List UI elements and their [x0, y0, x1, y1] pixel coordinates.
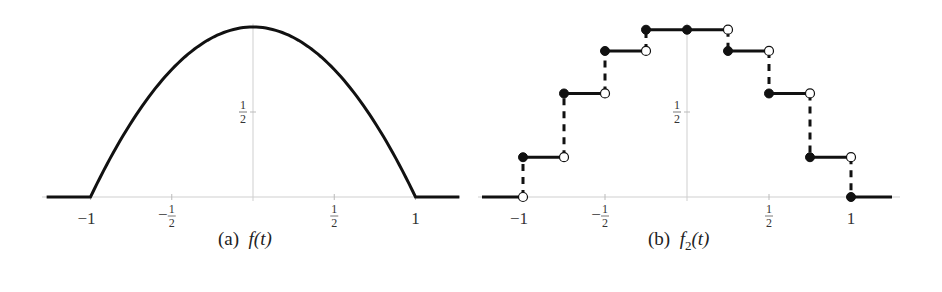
open-dot [724, 25, 733, 34]
svg-text:1: 1 [331, 202, 337, 216]
open-dot [601, 89, 610, 98]
x-tick-label: −12 [158, 202, 176, 230]
caption-b: (b) f2(t) [648, 228, 709, 254]
svg-text:2: 2 [331, 216, 337, 230]
x-tick-label: 1 [411, 209, 420, 228]
chart-panel-a: −1−1212112 [42, 24, 460, 230]
caption-b-arg: (t) [691, 228, 709, 249]
svg-text:2: 2 [766, 216, 772, 230]
svg-text:−1: −1 [510, 209, 528, 228]
x-tick-label: 12 [765, 202, 773, 230]
chart-panel-b: −1−1212112 [478, 24, 900, 230]
filled-dot [683, 25, 692, 34]
svg-text:−1: −1 [77, 209, 95, 228]
filled-dot [724, 46, 733, 55]
open-dot [519, 193, 528, 202]
open-dot [560, 153, 569, 162]
svg-text:2: 2 [169, 216, 175, 230]
caption-a-label: (a) [218, 228, 239, 249]
figure-canvas: −1−1212112 −1−1212112 [0, 0, 942, 292]
y-tick-label: 12 [673, 98, 681, 126]
x-tick-label: 1 [847, 209, 856, 228]
svg-text:1: 1 [674, 98, 680, 112]
svg-text:1: 1 [602, 202, 608, 216]
svg-text:2: 2 [674, 112, 680, 126]
open-dot [806, 89, 815, 98]
filled-dot [642, 25, 651, 34]
svg-text:−: − [158, 205, 168, 224]
caption-b-label: (b) [648, 228, 670, 249]
open-dot [642, 46, 651, 55]
filled-dot [601, 46, 610, 55]
svg-text:1: 1 [169, 202, 175, 216]
filled-dot [847, 193, 856, 202]
x-tick-label: −12 [591, 202, 609, 230]
filled-dot [806, 153, 815, 162]
svg-text:1: 1 [411, 209, 420, 228]
y-tick-label: 12 [239, 98, 247, 126]
filled-dot [765, 89, 774, 98]
caption-a-function: f(t) [249, 228, 272, 249]
filled-dot [560, 89, 569, 98]
svg-text:2: 2 [240, 112, 246, 126]
svg-text:1: 1 [766, 202, 772, 216]
svg-text:2: 2 [602, 216, 608, 230]
open-dot [847, 153, 856, 162]
svg-text:−: − [591, 205, 601, 224]
x-tick-label: −1 [510, 209, 528, 228]
caption-a: (a) f(t) [218, 228, 272, 250]
svg-text:1: 1 [847, 209, 856, 228]
x-tick-label: −1 [77, 209, 95, 228]
x-tick-label: 12 [330, 202, 338, 230]
svg-text:1: 1 [240, 98, 246, 112]
filled-dot [519, 153, 528, 162]
open-dot [765, 46, 774, 55]
